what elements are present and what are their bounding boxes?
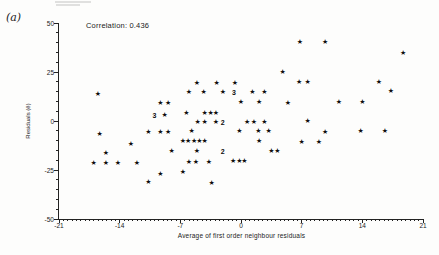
x-minor-tick bbox=[249, 219, 250, 221]
x-minor-tick bbox=[258, 219, 259, 221]
y-minor-tick bbox=[56, 32, 58, 33]
scatter-point: ★ bbox=[213, 109, 219, 116]
scatter-point: ★ bbox=[95, 90, 101, 97]
y-major-tick bbox=[54, 23, 58, 24]
x-minor-tick bbox=[106, 219, 107, 221]
x-minor-tick bbox=[202, 219, 203, 221]
scatter-point: ★ bbox=[336, 98, 342, 105]
scatter-point: ★ bbox=[256, 98, 262, 105]
scatter-point: ★ bbox=[220, 88, 226, 95]
scatter-point: ★ bbox=[157, 128, 163, 135]
scatter-point: ★ bbox=[165, 128, 171, 135]
x-minor-tick bbox=[371, 219, 372, 221]
x-minor-tick bbox=[154, 219, 155, 221]
overlap-count-label: 3 bbox=[152, 111, 156, 118]
x-minor-tick bbox=[401, 219, 402, 221]
y-tick-label: 25 bbox=[36, 69, 54, 76]
x-minor-tick bbox=[223, 219, 224, 221]
scatter-point: ★ bbox=[274, 147, 280, 154]
y-minor-tick bbox=[56, 81, 58, 82]
x-minor-tick bbox=[89, 219, 90, 221]
scatter-point: ★ bbox=[157, 170, 163, 177]
scatter-point: ★ bbox=[103, 159, 109, 166]
x-minor-tick bbox=[111, 219, 112, 221]
y-major-tick bbox=[54, 72, 58, 73]
y-tick-label: -25 bbox=[36, 167, 54, 174]
x-minor-tick bbox=[306, 219, 307, 221]
scatter-point: ★ bbox=[266, 127, 272, 134]
scatter-point: ★ bbox=[357, 128, 363, 135]
x-minor-tick bbox=[340, 219, 341, 221]
scatter-point: ★ bbox=[214, 79, 220, 86]
scatter-point: ★ bbox=[249, 88, 255, 95]
y-minor-tick bbox=[56, 160, 58, 161]
x-minor-tick bbox=[163, 219, 164, 221]
scatter-point: ★ bbox=[201, 88, 207, 95]
x-minor-tick bbox=[379, 219, 380, 221]
scatter-point: ★ bbox=[134, 159, 140, 166]
x-minor-tick bbox=[102, 219, 103, 221]
x-minor-tick bbox=[349, 219, 350, 221]
scatter-point: ★ bbox=[91, 159, 97, 166]
scatter-point: ★ bbox=[103, 149, 109, 156]
scatter-point: ★ bbox=[382, 128, 388, 135]
scatter-point: ★ bbox=[279, 69, 285, 76]
y-tick-label: -50 bbox=[36, 216, 54, 223]
y-minor-tick bbox=[56, 150, 58, 151]
y-tick-label: 0 bbox=[36, 118, 54, 125]
x-tick-label: -7 bbox=[168, 222, 192, 229]
scatter-point: ★ bbox=[255, 127, 261, 134]
x-minor-tick bbox=[72, 219, 73, 221]
scatter-point: ★ bbox=[145, 178, 151, 185]
x-minor-tick bbox=[297, 219, 298, 221]
x-minor-tick bbox=[98, 219, 99, 221]
y-major-tick bbox=[54, 219, 58, 220]
scatter-point: ★ bbox=[322, 128, 328, 135]
x-minor-tick bbox=[63, 219, 64, 221]
y-minor-tick bbox=[56, 91, 58, 92]
x-minor-tick bbox=[228, 219, 229, 221]
scatter-point: ★ bbox=[195, 118, 201, 125]
x-minor-tick bbox=[93, 219, 94, 221]
scatter-point: ★ bbox=[183, 109, 189, 116]
scatter-point: ★ bbox=[201, 118, 207, 125]
y-minor-tick bbox=[56, 140, 58, 141]
y-minor-tick bbox=[56, 111, 58, 112]
scatter-point: ★ bbox=[388, 88, 394, 95]
y-major-tick bbox=[54, 121, 58, 122]
x-minor-tick bbox=[336, 219, 337, 221]
x-minor-tick bbox=[132, 219, 133, 221]
y-minor-tick bbox=[56, 130, 58, 131]
scatter-point: ★ bbox=[206, 158, 212, 165]
scatter-point: ★ bbox=[232, 79, 238, 86]
scatter-point: ★ bbox=[193, 158, 199, 165]
x-minor-tick bbox=[366, 219, 367, 221]
y-axis-line bbox=[58, 23, 59, 220]
scatter-point: ★ bbox=[256, 137, 262, 144]
x-minor-tick bbox=[375, 219, 376, 221]
scatter-point: ★ bbox=[238, 98, 244, 105]
x-minor-tick bbox=[332, 219, 333, 221]
figure-panel: (a) Correlation: 0.436 Average of first … bbox=[0, 0, 439, 255]
x-minor-tick bbox=[150, 219, 151, 221]
x-minor-tick bbox=[384, 219, 385, 221]
scatter-point: ★ bbox=[261, 88, 267, 95]
x-minor-tick bbox=[323, 219, 324, 221]
x-minor-tick bbox=[319, 219, 320, 221]
scatter-point: ★ bbox=[305, 118, 311, 125]
x-minor-tick bbox=[271, 219, 272, 221]
y-tick-label: 50 bbox=[36, 20, 54, 27]
scatter-point: ★ bbox=[165, 99, 171, 106]
x-minor-tick bbox=[358, 219, 359, 221]
x-minor-tick bbox=[280, 219, 281, 221]
scatter-point: ★ bbox=[241, 157, 247, 164]
scatter-point: ★ bbox=[169, 147, 175, 154]
scatter-point: ★ bbox=[251, 118, 257, 125]
panel-label: (a) bbox=[6, 11, 21, 24]
x-minor-tick bbox=[85, 219, 86, 221]
x-minor-tick bbox=[189, 219, 190, 221]
overlap-count-label: 3 bbox=[232, 88, 236, 95]
x-minor-tick bbox=[327, 219, 328, 221]
scatter-point: ★ bbox=[97, 130, 103, 137]
scatter-point: ★ bbox=[296, 78, 302, 85]
